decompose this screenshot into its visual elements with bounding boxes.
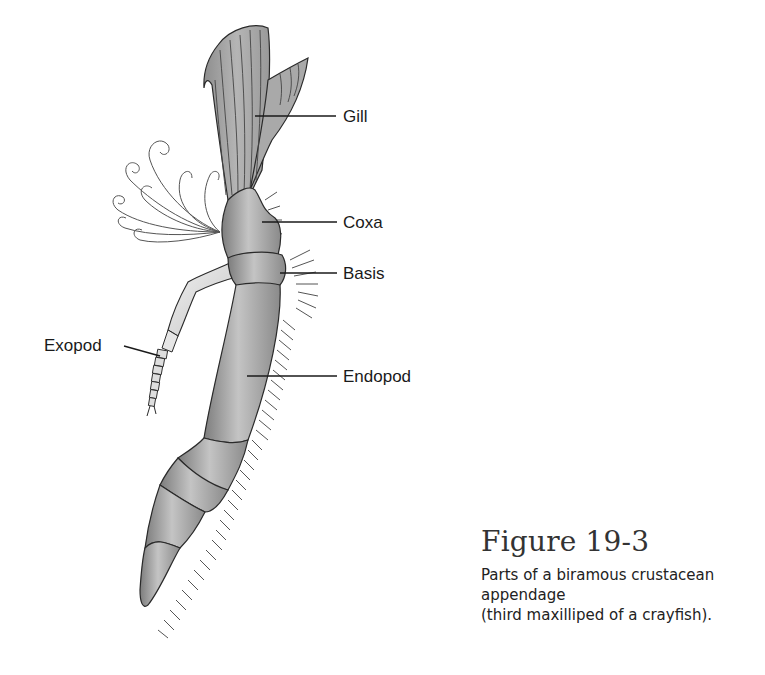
label-endopod: Endopod [343, 368, 411, 385]
caption-line-1: Parts of a biramous crustacean appendage [481, 565, 761, 605]
figure-title: Figure 19-3 [481, 525, 649, 558]
coxa-shape [222, 188, 281, 261]
endopod-shape [140, 283, 280, 607]
label-basis: Basis [343, 265, 385, 282]
label-gill: Gill [343, 108, 368, 125]
label-coxa: Coxa [343, 214, 383, 231]
figure-caption: Parts of a biramous crustacean appendage… [481, 565, 761, 625]
caption-line-2: (third maxilliped of a crayfish). [481, 605, 761, 625]
label-exopod: Exopod [44, 337, 102, 354]
curled-setae [113, 141, 220, 242]
